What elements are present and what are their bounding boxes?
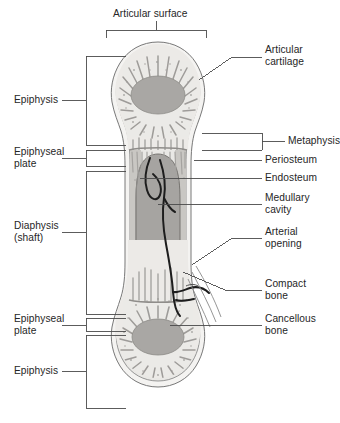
label-endosteum: Endosteum	[265, 172, 317, 184]
label-epiphysis-bottom: Epiphysis	[14, 365, 58, 377]
label-epiphyseal-plate-bottom: Epiphyseal plate	[14, 313, 64, 336]
epiphysis-core-top	[131, 76, 185, 114]
label-articular-surface: Articular surface	[113, 8, 187, 20]
label-metaphysis: Metaphysis	[288, 135, 340, 147]
label-diaphysis: Diaphysis (shaft)	[14, 220, 59, 243]
label-medullary-cavity: Medullary cavity	[265, 192, 310, 215]
label-cancellous-bone: Cancellous bone	[265, 313, 316, 336]
bracket-epiphyseal-plate-top	[62, 150, 126, 166]
label-epiphysis-top: Epiphysis	[14, 94, 58, 106]
label-periosteum: Periosteum	[265, 154, 317, 166]
bracket-metaphysis	[202, 133, 285, 150]
leader-articular-cartilage	[199, 57, 262, 80]
label-articular-cartilage: Articular cartilage	[265, 44, 304, 67]
label-arterial-opening: Arterial opening	[265, 226, 302, 249]
bone-illustration	[110, 40, 221, 387]
epiphysis-core-bottom	[132, 319, 184, 355]
label-compact-bone: Compact bone	[265, 278, 306, 301]
leader-arterial-opening	[192, 238, 262, 265]
label-epiphyseal-plate-top: Epiphyseal plate	[14, 146, 64, 169]
bracket-articular-surface	[106, 21, 206, 38]
bracket-diaphysis	[62, 171, 126, 314]
